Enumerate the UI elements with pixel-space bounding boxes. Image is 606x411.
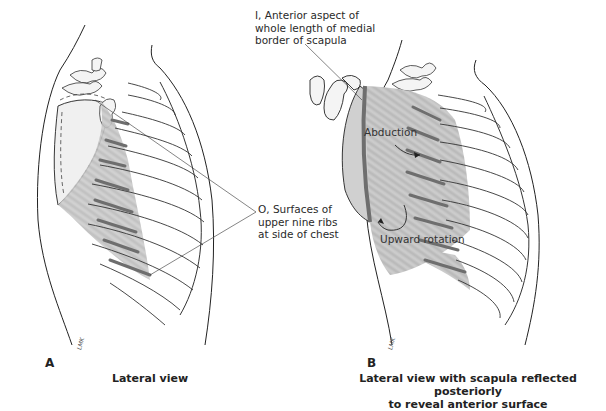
panel-letter-b: B	[367, 356, 376, 370]
abduction-label: Abduction	[364, 126, 417, 138]
insertion-label: I, Anterior aspect of whole length of me…	[255, 9, 375, 47]
insertion-label-line3: border of scapula	[255, 34, 375, 47]
origin-label-line2: upper nine ribs	[258, 216, 339, 229]
caption-b-line1: Lateral view with scapula reflected post…	[330, 372, 606, 398]
insertion-label-line1: I, Anterior aspect of	[255, 9, 375, 22]
panel-b-drawing	[305, 40, 539, 345]
origin-label-line1: O, Surfaces of	[258, 203, 339, 216]
origin-label-line3: at side of chest	[258, 228, 339, 241]
caption-b: Lateral view with scapula reflected post…	[330, 372, 606, 411]
upward-rotation-label: Upward rotation	[380, 233, 465, 245]
origin-label: O, Surfaces of upper nine ribs at side o…	[258, 203, 339, 241]
insertion-label-line2: whole length of medial	[255, 22, 375, 35]
caption-b-line2: to reveal anterior surface	[330, 398, 606, 411]
caption-a: Lateral view	[90, 372, 210, 385]
panel-a-drawing	[37, 25, 256, 345]
panel-letter-a: A	[45, 356, 54, 370]
